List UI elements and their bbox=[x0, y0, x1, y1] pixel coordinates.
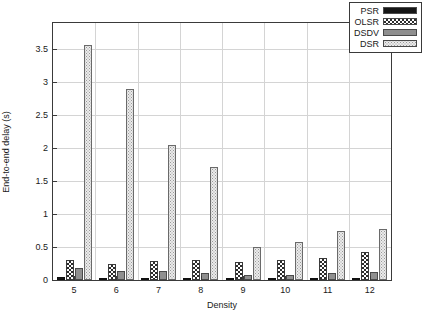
y-tick-label: 3 bbox=[43, 77, 48, 87]
legend-item: DSR bbox=[354, 38, 417, 49]
legend-label: OLSR bbox=[354, 17, 379, 27]
y-tick-mark bbox=[53, 115, 57, 116]
bar-dsr-10 bbox=[295, 242, 303, 280]
y-tick-label: 1.5 bbox=[35, 176, 48, 186]
chart-figure: 00.511.522.533.556789101112 End-to-end d… bbox=[0, 0, 424, 325]
x-tick-mark bbox=[74, 276, 75, 280]
legend-label: PSR bbox=[360, 6, 379, 16]
bar-psr-11 bbox=[310, 278, 318, 280]
y-tick-label: 0 bbox=[43, 275, 48, 285]
x-tick-label: 12 bbox=[365, 285, 375, 295]
y-tick-mark bbox=[53, 181, 57, 182]
plot-area: 00.511.522.533.556789101112 bbox=[52, 22, 392, 281]
y-tick-label: 0.5 bbox=[35, 242, 48, 252]
x-tick-label: 11 bbox=[323, 285, 332, 295]
bar-dsr-9 bbox=[253, 247, 261, 280]
bar-dsr-11 bbox=[337, 231, 345, 280]
legend-item: PSR bbox=[354, 5, 417, 16]
y-tick-mark bbox=[53, 148, 57, 149]
bar-psr-9 bbox=[226, 278, 234, 280]
legend-item: DSDV bbox=[354, 27, 417, 38]
bar-psr-8 bbox=[183, 278, 191, 280]
x-tick-label: 7 bbox=[156, 285, 161, 295]
x-axis-label: Density bbox=[52, 300, 392, 310]
legend-label: DSDV bbox=[354, 28, 379, 38]
y-tick-label: 1 bbox=[43, 209, 48, 219]
bar-dsr-7 bbox=[168, 145, 176, 280]
bar-dsr-6 bbox=[126, 89, 134, 280]
bars-layer bbox=[53, 23, 391, 280]
bar-olsr-5 bbox=[66, 260, 74, 280]
bar-dsdv-10 bbox=[286, 275, 294, 280]
bar-olsr-12 bbox=[361, 252, 369, 280]
bar-olsr-7 bbox=[150, 261, 158, 280]
y-tick-mark bbox=[53, 214, 57, 215]
y-tick-label: 2.5 bbox=[35, 110, 48, 120]
bar-olsr-9 bbox=[235, 262, 243, 280]
bar-psr-5 bbox=[57, 277, 65, 280]
bar-dsdv-11 bbox=[328, 273, 336, 280]
bar-olsr-8 bbox=[192, 260, 200, 280]
legend-swatch-dsr bbox=[383, 40, 417, 47]
legend-item: OLSR bbox=[354, 16, 417, 27]
legend-swatch-olsr bbox=[383, 18, 417, 25]
legend-swatch-psr bbox=[383, 7, 417, 14]
bar-dsdv-5 bbox=[75, 268, 83, 280]
y-tick-label: 2 bbox=[43, 143, 48, 153]
bar-psr-7 bbox=[141, 278, 149, 280]
bar-dsdv-12 bbox=[370, 272, 378, 280]
x-tick-mark bbox=[370, 276, 371, 280]
x-tick-mark bbox=[328, 276, 329, 280]
x-tick-mark bbox=[159, 276, 160, 280]
bar-dsdv-9 bbox=[244, 275, 252, 280]
legend-swatch-dsdv bbox=[383, 29, 417, 36]
x-tick-mark bbox=[116, 276, 117, 280]
bar-olsr-6 bbox=[108, 264, 116, 280]
chart-legend: PSR OLSR DSDV DSR bbox=[349, 2, 422, 53]
x-tick-label: 8 bbox=[198, 285, 203, 295]
legend-label: DSR bbox=[360, 39, 379, 49]
y-tick-mark bbox=[53, 280, 57, 281]
bar-dsdv-6 bbox=[117, 271, 125, 280]
y-tick-mark bbox=[53, 247, 57, 248]
bar-psr-12 bbox=[352, 278, 360, 280]
bar-olsr-10 bbox=[277, 260, 285, 280]
bar-dsr-12 bbox=[379, 229, 387, 280]
x-tick-label: 6 bbox=[114, 285, 119, 295]
x-tick-mark bbox=[285, 276, 286, 280]
bar-dsdv-8 bbox=[201, 273, 209, 280]
x-tick-mark bbox=[201, 276, 202, 280]
x-tick-label: 10 bbox=[280, 285, 290, 295]
bar-dsdv-7 bbox=[159, 271, 167, 280]
bar-psr-10 bbox=[268, 278, 276, 280]
x-tick-label: 5 bbox=[72, 285, 77, 295]
y-axis-label: End-to-end delay (s) bbox=[1, 111, 11, 193]
y-tick-label: 3.5 bbox=[35, 44, 48, 54]
x-tick-mark bbox=[243, 276, 244, 280]
bar-psr-6 bbox=[99, 278, 107, 280]
bar-olsr-11 bbox=[319, 258, 327, 280]
x-tick-label: 9 bbox=[241, 285, 246, 295]
y-tick-mark bbox=[53, 49, 57, 50]
bar-dsr-5 bbox=[84, 45, 92, 280]
bar-dsr-8 bbox=[210, 167, 218, 280]
y-tick-mark bbox=[53, 82, 57, 83]
